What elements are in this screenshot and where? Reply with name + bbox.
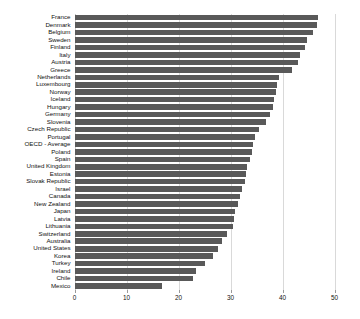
x-tick — [231, 290, 232, 293]
category-label: Lithuania — [45, 222, 70, 229]
bar — [75, 238, 222, 244]
category-label: Israel — [55, 185, 70, 192]
category-label: Finland — [50, 43, 70, 50]
bar — [75, 149, 252, 155]
bar — [75, 209, 236, 215]
category-label: Switzerland — [39, 230, 71, 237]
bar — [75, 157, 251, 163]
bar-row: Estonia — [75, 171, 335, 178]
bar — [75, 60, 298, 66]
bar-row: Japan — [75, 208, 335, 215]
category-label: Japan — [54, 207, 71, 214]
category-label: Australia — [46, 237, 70, 244]
x-tick-label: 40 — [279, 294, 286, 301]
x-tick — [75, 290, 76, 293]
bar-row: Slovenia — [75, 118, 335, 125]
bar — [75, 112, 271, 118]
bar-row: Portugal — [75, 133, 335, 140]
bar — [75, 37, 308, 43]
bar — [75, 104, 273, 110]
category-label: Iceland — [51, 95, 71, 102]
x-tick — [335, 290, 336, 293]
bar-row: Latvia — [75, 215, 335, 222]
category-label: Canada — [49, 192, 71, 199]
x-tick-label: 50 — [331, 294, 338, 301]
bar-row: Austria — [75, 59, 335, 66]
x-tick-label: 10 — [123, 294, 130, 301]
bar-row: OECD - Average — [75, 141, 335, 148]
x-tick — [179, 290, 180, 293]
bar-row: Greece — [75, 66, 335, 73]
bar — [75, 22, 317, 28]
bar-row: Netherlands — [75, 74, 335, 81]
bar-row: Lithuania — [75, 223, 335, 230]
category-label: Portugal — [47, 133, 70, 140]
category-label: France — [51, 13, 70, 20]
x-axis: 01020304050 — [75, 290, 335, 310]
category-label: Sweden — [48, 36, 70, 43]
category-label: Ireland — [52, 267, 71, 274]
bar — [75, 194, 241, 200]
bar-row: New Zealand — [75, 200, 335, 207]
gridline-50 — [335, 14, 336, 290]
category-label: Latvia — [54, 215, 71, 222]
bar-row: Slovak Republic — [75, 178, 335, 185]
category-label: OECD - Average — [25, 140, 71, 147]
bar — [75, 127, 259, 133]
bar — [75, 268, 196, 274]
bar-row: Hungary — [75, 103, 335, 110]
bar-row: Denmark — [75, 21, 335, 28]
bar — [75, 52, 300, 58]
bar-chart: FranceDenmarkBelgiumSwedenFinlandItalyAu… — [0, 0, 360, 319]
bar-row: Finland — [75, 44, 335, 51]
bar — [75, 30, 314, 36]
bar-row: Mexico — [75, 282, 335, 289]
bar-row: Ireland — [75, 267, 335, 274]
category-label: Netherlands — [37, 73, 70, 80]
category-label: New Zealand — [34, 200, 70, 207]
bar — [75, 75, 280, 81]
category-label: Austria — [51, 58, 70, 65]
category-label: Greece — [50, 66, 70, 73]
bar — [75, 186, 242, 192]
category-label: United Kingdom — [26, 162, 70, 169]
bar — [75, 179, 245, 185]
bar-row: Israel — [75, 185, 335, 192]
category-label: Denmark — [45, 21, 70, 28]
category-label: Luxembourg — [36, 80, 70, 87]
bar — [75, 171, 247, 177]
bar-row: Chile — [75, 275, 335, 282]
bar — [75, 164, 248, 170]
category-label: Turkey — [52, 259, 71, 266]
bar-row: Australia — [75, 238, 335, 245]
bar — [75, 119, 267, 125]
bar — [75, 216, 234, 222]
category-label: Italy — [59, 51, 70, 58]
category-label: Hungary — [47, 103, 70, 110]
bar-row: France — [75, 14, 335, 21]
bar-row: United Kingdom — [75, 163, 335, 170]
bar — [75, 89, 276, 95]
bar-row: United States — [75, 245, 335, 252]
bar-row: Poland — [75, 148, 335, 155]
category-label: Germany — [45, 110, 70, 117]
bar-row: Sweden — [75, 36, 335, 43]
bar-row: Italy — [75, 51, 335, 58]
category-label: Slovenia — [47, 118, 71, 125]
bar-row: Luxembourg — [75, 81, 335, 88]
bar — [75, 15, 319, 21]
bar — [75, 82, 278, 88]
bar — [75, 224, 233, 230]
bar — [75, 97, 275, 103]
bar — [75, 231, 228, 237]
x-tick-label: 0 — [73, 294, 77, 301]
bar-row: Germany — [75, 111, 335, 118]
bar — [75, 201, 239, 207]
category-label: Mexico — [51, 282, 71, 289]
bar-row: Spain — [75, 156, 335, 163]
bar — [75, 134, 255, 140]
plot-area: FranceDenmarkBelgiumSwedenFinlandItalyAu… — [75, 14, 335, 290]
bar-row: Czech Republic — [75, 126, 335, 133]
category-label: Spain — [55, 155, 71, 162]
bar — [75, 67, 292, 73]
